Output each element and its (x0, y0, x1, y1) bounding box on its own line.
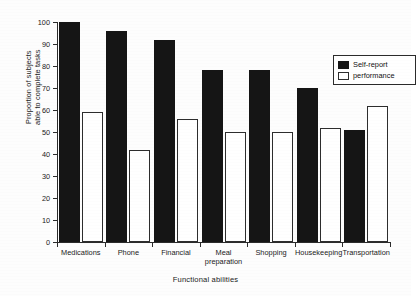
y-axis-title-line-2: able to complete tasks (33, 2, 42, 172)
x-tick-mark (247, 243, 248, 247)
y-tick-label: 60 (42, 106, 50, 115)
x-axis-category-label-line: preparation (205, 257, 242, 266)
x-axis-category-label: Housekeeping (295, 248, 342, 257)
y-tick-mark (53, 66, 57, 67)
bar-self-report (202, 70, 223, 242)
chart-legend: Self-report performance (333, 55, 416, 85)
y-tick-mark (53, 176, 57, 177)
y-tick-label: 70 (42, 84, 50, 93)
bar-self-report (154, 40, 175, 242)
bar-self-report (344, 130, 365, 242)
y-tick-label: 50 (42, 128, 50, 137)
x-tick-mark (390, 243, 391, 247)
bar-performance (320, 128, 341, 242)
y-tick-mark (53, 198, 57, 199)
bar-self-report (249, 70, 270, 242)
legend-entry-performance: performance (338, 70, 411, 81)
bar-self-report (297, 88, 318, 242)
bar-performance (177, 119, 198, 242)
y-axis-title-line-1: Proportion of subjects (24, 2, 33, 172)
x-tick-mark (152, 243, 153, 247)
legend-swatch-self-report-icon (338, 61, 349, 69)
legend-entry-self-report: Self-report (338, 59, 411, 70)
x-axis-category-label-line: Transportation (343, 248, 390, 257)
y-tick-mark (53, 88, 57, 89)
x-tick-mark (105, 243, 106, 247)
x-axis-category-label: Transportation (343, 248, 390, 257)
legend-swatch-performance-icon (338, 72, 349, 80)
plot-area: 0102030405060708090100 MedicationsPhoneF… (57, 22, 390, 242)
x-axis-category-label-line: Shopping (255, 248, 286, 257)
bar-self-report (59, 22, 80, 242)
x-axis-category-label: Financial (161, 248, 191, 257)
x-tick-mark (295, 243, 296, 247)
x-axis-category-label: Phone (118, 248, 139, 257)
y-tick-mark (53, 154, 57, 155)
bar-performance (225, 132, 246, 242)
y-tick-mark (53, 110, 57, 111)
x-axis-category-label: Shopping (255, 248, 286, 257)
y-axis-title: Proportion of subjects able to complete … (24, 2, 42, 172)
x-axis-category-label: Medications (61, 248, 100, 257)
y-tick-label: 10 (42, 216, 50, 225)
y-tick-label: 30 (42, 172, 50, 181)
legend-label-self-report: Self-report (353, 60, 388, 69)
x-tick-mark (342, 243, 343, 247)
x-axis-line (57, 242, 391, 243)
x-axis-category-label-line: Meal (205, 248, 242, 257)
y-tick-label: 20 (42, 194, 50, 203)
legend-label-performance: performance (353, 71, 395, 80)
y-tick-mark (53, 22, 57, 23)
bar-performance (82, 112, 103, 242)
x-axis-category-label: Mealpreparation (205, 248, 242, 267)
x-axis-category-label-line: Financial (161, 248, 191, 257)
y-tick-mark (53, 132, 57, 133)
y-tick-label: 40 (42, 150, 50, 159)
y-tick-mark (53, 220, 57, 221)
x-axis-category-label-line: Medications (61, 248, 100, 257)
y-tick-label: 100 (38, 18, 50, 27)
bar-performance (367, 106, 388, 242)
y-tick-label: 90 (42, 40, 50, 49)
bar-performance (272, 132, 293, 242)
bar-self-report (106, 31, 127, 242)
y-tick-mark (53, 44, 57, 45)
x-axis-title: Functional abilities (0, 275, 411, 284)
y-tick-label: 80 (42, 62, 50, 71)
y-tick-label: 0 (46, 238, 50, 247)
x-tick-mark (57, 243, 58, 247)
bar-performance (129, 150, 150, 242)
x-axis-category-label-line: Housekeeping (295, 248, 342, 257)
x-tick-mark (200, 243, 201, 247)
x-axis-category-label-line: Phone (118, 248, 139, 257)
